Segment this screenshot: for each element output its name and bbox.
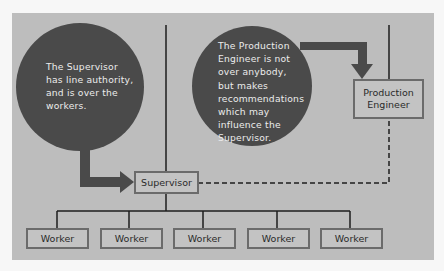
production-engineer-label-line2: Engineer [367,99,409,111]
production-engineer-node: Production Engineer [353,79,424,119]
worker-label: Worker [115,233,148,245]
supervisor-note-line: The Supervisor [46,60,133,73]
supervisor-note-line: workers. [46,99,133,112]
worker-node-5: Worker [320,228,383,249]
worker-label: Worker [335,233,368,245]
pe-note-line: recommendations [218,92,304,105]
pe-note-line: Engineer is not [218,52,304,65]
supervisor-note-arrow [80,140,134,193]
supervisor-node: Supervisor [134,171,199,194]
pe-note-line: which may [218,105,304,118]
worker-node-1: Worker [26,228,89,249]
pe-note-line: but makes [218,79,304,92]
supervisor-note-line: has line authority, [46,73,133,86]
supervisor-label: Supervisor [141,177,192,189]
worker-node-4: Worker [247,228,310,249]
worker-node-2: Worker [100,228,163,249]
worker-node-3: Worker [173,228,236,249]
pe-note-line: The Production [218,39,304,52]
pe-note-line: influence the [218,118,304,131]
worker-label: Worker [41,233,74,245]
pe-note-line: over anybody, [218,65,304,78]
worker-label: Worker [262,233,295,245]
pe-note-line: Supervisor. [218,131,304,144]
supervisor-note-line: and is over the [46,86,133,99]
production-engineer-note-text: The Production Engineer is not over anyb… [218,39,304,145]
production-engineer-label-line1: Production [363,87,414,99]
supervisor-note-text: The Supervisor has line authority, and i… [46,60,133,112]
production-engineer-note-arrow [300,42,373,79]
worker-label: Worker [188,233,221,245]
